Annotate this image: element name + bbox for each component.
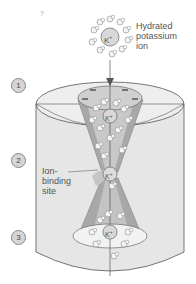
- corner-mark: ?: [40, 10, 44, 17]
- step-3-badge: 3: [11, 230, 26, 245]
- binding-site-label: Ion- binding site: [42, 166, 71, 196]
- step-2-badge: 2: [11, 153, 26, 168]
- ion-symbol-top: K+: [104, 32, 112, 46]
- ion-symbol-1: K+: [105, 111, 113, 124]
- step-1-badge: 1: [11, 78, 26, 93]
- ion-symbol-3: K+: [105, 227, 113, 240]
- ion-symbol-2: K+: [105, 169, 113, 182]
- potassium-channel-diagram: ? K+ K+ K+ K+ Hydrated potassium ion Ion…: [0, 0, 196, 284]
- hydrated-ion-label: Hydrated potassium ion: [136, 21, 177, 51]
